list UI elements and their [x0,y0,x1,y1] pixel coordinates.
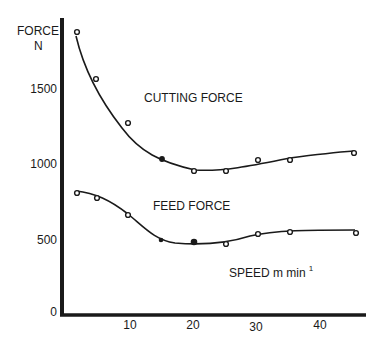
y-tick-0: 0 [17,305,57,319]
x-tick-40: 40 [305,318,335,332]
x-tick-20: 20 [178,318,208,332]
feed-force-label: FEED FORCE [153,199,230,213]
x-tick-10: 10 [115,318,145,332]
y-axis-title: FORCE [17,24,59,38]
y-tick-500: 500 [17,233,57,247]
y-axis-unit: N [34,39,43,53]
x-axis-title-superscript: 1 [309,264,313,273]
x-axis-title: SPEED m min1 [229,262,313,280]
cutting-force-label: CUTTING FORCE [144,91,243,105]
y-tick-1000: 1000 [17,157,57,171]
x-axis-title-text: SPEED m min [229,266,306,280]
x-tick-30: 30 [241,320,271,334]
chart-canvas [0,0,381,350]
y-tick-1500: 1500 [17,82,57,96]
